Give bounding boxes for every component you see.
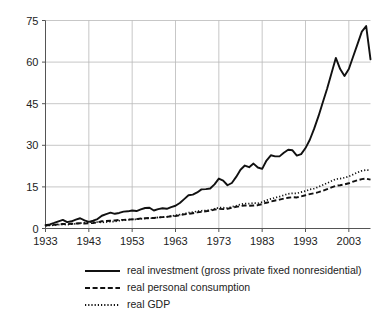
legend-item-label: real personal consumption (127, 281, 250, 293)
x-tick-label: 1993 (293, 235, 317, 247)
x-tick-label: 2003 (337, 235, 361, 247)
x-tick-label: 1983 (250, 235, 274, 247)
x-tick-label: 1943 (77, 235, 101, 247)
x-tick-label: 1953 (120, 235, 144, 247)
y-tick-label: 45 (26, 98, 38, 110)
y-tick-label: 30 (26, 139, 38, 151)
legend-item-label: real investment (gross private fixed non… (127, 264, 362, 276)
legend-item-label: real GDP (127, 298, 170, 310)
x-tick-label: 1933 (33, 235, 57, 247)
y-tick-label: 75 (26, 15, 38, 27)
line-chart: 01530456075 1933194319531963197319831993… (0, 0, 382, 319)
y-tick-label: 60 (26, 56, 38, 68)
x-tick-label: 1973 (207, 235, 231, 247)
y-tick-label: 0 (32, 223, 38, 235)
y-tick-label: 15 (26, 181, 38, 193)
x-tick-label: 1963 (163, 235, 187, 247)
